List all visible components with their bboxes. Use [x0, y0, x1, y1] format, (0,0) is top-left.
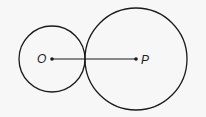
label-O: O [37, 52, 46, 66]
label-P: P [141, 53, 149, 67]
point-O [50, 57, 54, 61]
point-P [134, 57, 138, 61]
tangent-circles-diagram: O P [0, 0, 206, 117]
